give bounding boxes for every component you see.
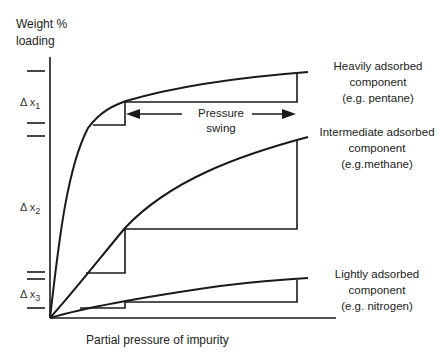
light-isotherm-curve <box>50 278 308 318</box>
intermediate-label-line2: component <box>310 140 444 156</box>
light-label-line3: (e.g. nitrogen) <box>322 298 432 314</box>
x-axis-label: Partial pressure of impurity <box>86 333 229 348</box>
delta-symbol: Δ x <box>20 96 35 108</box>
arrowhead-left-icon <box>126 109 140 119</box>
y-axis-label-line1: Weight % <box>16 16 67 33</box>
delta-index: 1 <box>35 101 40 111</box>
light-label-line2: component <box>322 282 432 298</box>
y-axis-label-line2: loading <box>16 33 67 50</box>
intermediate-label-line1: Intermediate adsorbed <box>310 124 444 140</box>
intermediate-isotherm-curve <box>50 137 308 318</box>
pressure-swing-line1: Pressure <box>188 106 254 121</box>
heavy-label-line2: component <box>318 74 438 90</box>
delta-index: 3 <box>35 293 40 303</box>
pressure-swing-label: Pressure swing <box>188 106 254 136</box>
intermediate-swing-step <box>86 140 297 273</box>
heavy-component-label: Heavily adsorbed component (e.g. pentane… <box>318 58 438 106</box>
light-label-line1: Lightly adsorbed <box>322 266 432 282</box>
delta-x1-label: Δ x1 <box>20 96 40 111</box>
intermediate-label-line3: (e.g.methane) <box>310 156 444 172</box>
light-component-label: Lightly adsorbed component (e.g. nitroge… <box>322 266 432 314</box>
delta-symbol: Δ x <box>20 288 35 300</box>
delta-index: 2 <box>35 206 40 216</box>
intermediate-component-label: Intermediate adsorbed component (e.g.met… <box>310 124 444 172</box>
pressure-swing-line2: swing <box>188 121 254 136</box>
arrowhead-right-icon <box>282 109 296 119</box>
delta-x3-label: Δ x3 <box>20 288 40 303</box>
heavy-label-line1: Heavily adsorbed <box>318 58 438 74</box>
y-axis-label: Weight % loading <box>16 16 67 50</box>
heavy-label-line3: (e.g. pentane) <box>318 90 438 106</box>
delta-x2-label: Δ x2 <box>20 201 40 216</box>
delta-symbol: Δ x <box>20 201 35 213</box>
